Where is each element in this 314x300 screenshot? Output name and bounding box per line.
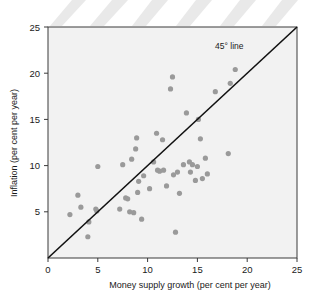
data-point [213,89,218,94]
data-point [117,206,122,211]
y-tick-label: 10 [29,160,40,171]
data-point [160,137,165,142]
data-point [125,196,130,201]
data-point [135,190,140,195]
data-point [188,169,193,174]
x-tick-label: 25 [292,264,303,275]
forty-five-degree-line-label: 45° line [215,41,244,51]
y-axis-title: Inflation (per cent per year) [9,89,19,197]
y-tick-label: 20 [29,68,40,79]
x-tick-label: 20 [242,264,253,275]
data-point [129,157,134,162]
y-tick-label: 5 [35,206,40,217]
data-point [193,178,198,183]
data-point [85,234,90,239]
data-point [203,156,208,161]
data-point [226,151,231,156]
data-point [228,81,233,86]
y-tick-label: 15 [29,114,40,125]
data-point [170,74,175,79]
data-point [177,191,182,196]
scatter-chart-figure: 0510152025510152025 45° line Money suppl… [0,0,314,300]
data-point [233,67,238,72]
data-point [139,217,144,222]
x-axis-title: Money supply growth (per cent per year) [109,280,271,290]
data-point [95,164,100,169]
data-point [161,168,166,173]
data-point [181,162,186,167]
chart-canvas: 0510152025510152025 45° line Money suppl… [0,0,314,300]
data-point [164,183,169,188]
data-point [173,230,178,235]
data-point [198,136,203,141]
data-point [205,171,210,176]
data-point [200,176,205,181]
x-tick-label: 10 [142,264,153,275]
y-tick-label: 25 [29,22,40,33]
data-point [78,205,83,210]
data-point [190,162,195,167]
data-point [168,86,173,91]
data-point [136,179,141,184]
data-point [195,164,200,169]
data-point [134,135,139,140]
data-point [175,169,180,174]
data-point [141,173,146,178]
data-point [184,110,189,115]
x-tick-label: 0 [45,264,50,275]
data-point [75,193,80,198]
data-point [120,162,125,167]
data-point [147,186,152,191]
data-point [133,146,138,151]
decorative-streaks [50,0,298,26]
data-point [67,212,72,217]
data-point [154,131,159,136]
x-tick-label: 5 [95,264,100,275]
x-tick-label: 15 [192,264,203,275]
data-point [131,210,136,215]
